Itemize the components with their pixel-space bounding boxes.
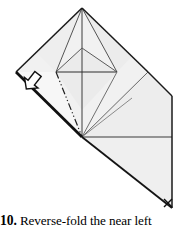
figure-caption: 10. Reverse-fold the near left xyxy=(0,211,181,233)
caption-step-number: 10. xyxy=(0,213,17,228)
origami-figure-panel xyxy=(0,0,181,212)
caption-text: Reverse-fold the near left xyxy=(20,213,152,228)
origami-diagram xyxy=(0,0,181,212)
